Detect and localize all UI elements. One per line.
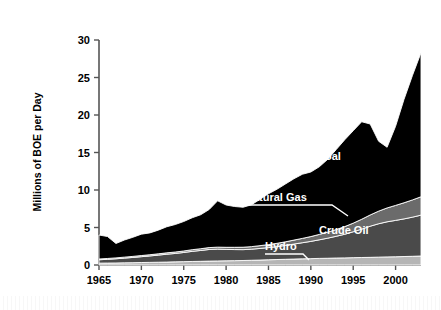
x-tick-label: 1995	[341, 274, 365, 286]
figure-root: 051015202530 196519701975198019851990199…	[0, 0, 441, 310]
y-tick-label: 0	[84, 259, 90, 271]
x-tick-label: 1980	[214, 274, 238, 286]
x-tick-label: 1975	[171, 274, 195, 286]
x-tick-label: 1970	[129, 274, 153, 286]
y-tick-label: 25	[78, 72, 90, 84]
series-label-hydro: Hydro	[265, 240, 297, 252]
y-tick-label: 30	[78, 34, 90, 46]
x-tick-label: 1990	[299, 274, 323, 286]
series-label-crude-oil: Crude Oil	[319, 224, 369, 236]
x-tick-label: 1965	[87, 274, 111, 286]
series-label-coal: Coal	[317, 150, 341, 162]
x-tick-label: 2000	[383, 274, 407, 286]
y-tick-label: 20	[78, 109, 90, 121]
y-tick-label: 10	[78, 184, 90, 196]
y-axis-title: Millions of BOE per Day	[31, 92, 43, 211]
scan-noise-strip	[0, 296, 441, 310]
stacked-area-chart: 051015202530 196519701975198019851990199…	[11, 15, 427, 290]
y-tick-label: 15	[78, 147, 90, 159]
x-tick-label: 1985	[256, 274, 280, 286]
series-label-natural-gas: Natural Gas	[245, 191, 307, 203]
y-tick-label: 5	[84, 222, 90, 234]
